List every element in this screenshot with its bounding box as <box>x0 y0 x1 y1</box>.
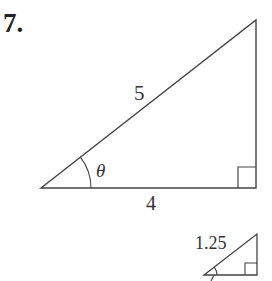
main-triangle-outline <box>41 20 256 188</box>
small-angle-arc <box>214 267 217 275</box>
adjacent-label: 4 <box>146 192 156 214</box>
hypotenuse-label: 5 <box>134 81 145 105</box>
small-hypotenuse-label: 1.25 <box>195 233 227 253</box>
small-angle-tick <box>211 275 214 281</box>
angle-arc <box>80 157 91 188</box>
small-right-angle-marker <box>245 263 257 275</box>
main-triangle <box>41 20 256 188</box>
right-angle-marker <box>238 167 256 188</box>
angle-theta-label: θ <box>96 160 105 181</box>
figure: 5 θ 4 1.25 <box>0 0 272 281</box>
